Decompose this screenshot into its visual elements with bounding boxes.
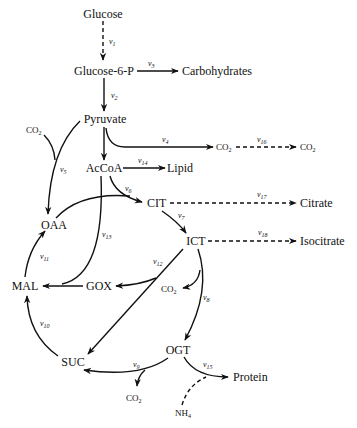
node-oaa: OAA — [41, 218, 67, 232]
flux-v1: v1 — [109, 37, 116, 47]
flux-v16: v16 — [257, 135, 267, 145]
node-accoa: AcCoA — [86, 161, 123, 175]
edge-v5-pyruvate — [48, 121, 80, 214]
node-co2-left: CO2 — [26, 125, 42, 136]
edge-v9-co2 — [137, 370, 145, 386]
node-ict: ICT — [186, 234, 206, 248]
edge-v4 — [106, 128, 213, 147]
edge-v13 — [62, 176, 101, 284]
node-glucose-6-p: Glucose-6-P — [74, 64, 134, 78]
node-cit: CIT — [147, 196, 167, 210]
node-nh4: NH4 — [175, 408, 191, 419]
flux-v6: v6 — [125, 184, 132, 194]
node-protein: Protein — [233, 370, 268, 384]
node-glucose: Glucose — [83, 7, 122, 21]
node-lipid: Lipid — [167, 161, 193, 175]
node-citrate: Citrate — [300, 196, 333, 210]
node-isocitrate: Isocitrate — [300, 234, 345, 248]
edge-v9 — [84, 358, 168, 372]
flux-v12: v12 — [153, 257, 163, 267]
flux-v8: v8 — [203, 293, 210, 303]
flux-v18: v18 — [258, 228, 268, 238]
flux-v4: v4 — [162, 135, 169, 145]
node-co2-v9: CO2 — [126, 393, 142, 404]
node-ogt: OGT — [166, 343, 191, 357]
flux-v7: v7 — [178, 211, 186, 221]
flux-v3: v3 — [148, 59, 155, 69]
metabolic-pathway-diagram: Glucose Glucose-6-P Carbohydrates Pyruva… — [0, 0, 357, 428]
node-carbohydrates: Carbohydrates — [182, 64, 252, 78]
edge-v12-suc — [88, 249, 183, 354]
node-co2-v16: CO2 — [300, 142, 316, 153]
flux-v14: v14 — [138, 156, 148, 166]
node-pyruvate: Pyruvate — [84, 112, 127, 126]
node-co2-ict: CO2 — [161, 284, 177, 295]
node-suc: SUC — [61, 355, 84, 369]
flux-v13: v13 — [102, 230, 112, 240]
node-mal: MAL — [12, 279, 39, 293]
edge-nh4 — [182, 377, 206, 405]
node-co2-v4: CO2 — [216, 142, 232, 153]
flux-v2: v2 — [111, 91, 118, 101]
flux-v15: v15 — [203, 360, 213, 370]
flux-v9: v9 — [133, 360, 140, 370]
flux-v10: v10 — [40, 319, 50, 329]
edge-v8 — [185, 249, 203, 340]
edge-ict-co2 — [183, 270, 200, 288]
edge-v6-oaa — [56, 195, 130, 218]
flux-v5: v5 — [60, 165, 67, 175]
flux-v11: v11 — [40, 252, 49, 262]
edge-v5-co2 — [44, 135, 55, 160]
flux-v17: v17 — [257, 190, 268, 200]
node-gox: GOX — [86, 279, 112, 293]
